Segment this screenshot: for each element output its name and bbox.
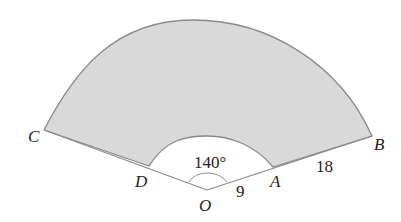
point-label-D: D <box>134 172 148 191</box>
length-label-18: 18 <box>316 157 333 176</box>
shaded-region <box>44 20 372 167</box>
sector-diagram: 140° C B D A O 9 18 <box>0 0 401 222</box>
point-label-A: A <box>269 172 281 191</box>
angle-arc <box>189 173 227 182</box>
angle-label: 140° <box>194 153 226 172</box>
length-label-9: 9 <box>236 182 245 201</box>
point-label-B: B <box>374 135 385 154</box>
point-label-O: O <box>199 196 211 215</box>
point-label-C: C <box>28 127 40 146</box>
